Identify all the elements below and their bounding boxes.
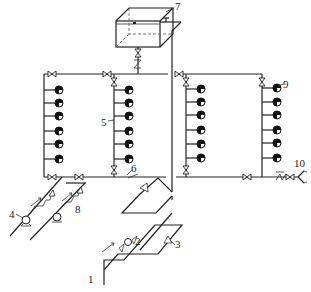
label-7: 7 (175, 0, 181, 12)
label-6: 6 (131, 162, 137, 174)
riser-a (44, 74, 63, 177)
label-9: 9 (283, 78, 289, 90)
riser-b (111, 74, 133, 177)
pump-adapter (262, 171, 307, 183)
label-8: 8 (75, 203, 81, 215)
top-main-left (44, 71, 168, 77)
riser-c (183, 74, 205, 177)
label-5: 5 (101, 116, 107, 128)
label-4: 4 (9, 208, 15, 220)
bottom-ring-main (44, 174, 262, 180)
fire-pump-4-line (10, 177, 62, 236)
label-3: 3 (175, 238, 181, 250)
leader-4 (16, 214, 23, 218)
riser-d (259, 74, 281, 177)
top-main-right (175, 71, 262, 77)
label-2: 2 (135, 235, 141, 247)
leader-5 (108, 120, 114, 121)
inlet-piping (102, 178, 182, 285)
fire-water-supply-diagram: 1 2 3 4 5 6 7 8 9 10 (0, 0, 311, 292)
label-1: 1 (88, 273, 94, 285)
label-10: 10 (294, 157, 306, 169)
tank-outlet-piping (134, 18, 181, 192)
roof-water-tank (116, 8, 173, 47)
